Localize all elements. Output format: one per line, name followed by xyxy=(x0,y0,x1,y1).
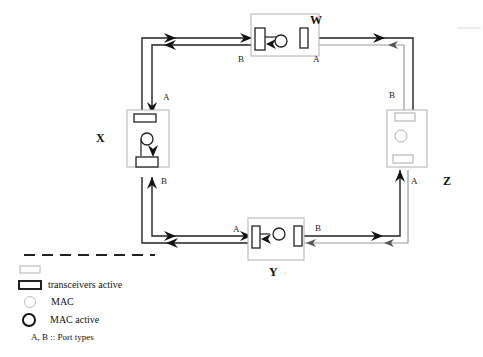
transceiver-b xyxy=(395,113,415,121)
transceiver-a xyxy=(393,155,413,163)
legend-mac-active-icon xyxy=(23,314,35,326)
transceiver-b xyxy=(136,157,158,167)
legend-label-mac: MAC xyxy=(51,296,74,307)
node-y[interactable]: Y A B xyxy=(233,218,321,279)
port-label-w-b: B xyxy=(238,54,244,64)
port-label-y-a: A xyxy=(233,224,240,234)
mac-icon xyxy=(275,35,287,47)
legend-label-port-types: A, B :: Port types xyxy=(31,332,94,342)
port-label-z-b: B xyxy=(389,90,395,100)
node-z[interactable]: Z B A xyxy=(387,90,451,188)
legend-transceiver-idle xyxy=(20,266,40,273)
mac-icon xyxy=(141,133,153,145)
legend-mac-idle-icon xyxy=(25,297,36,308)
node-label-y: Y xyxy=(269,265,278,279)
port-label-x-a: A xyxy=(163,92,170,102)
link-y-z xyxy=(304,170,408,247)
link-w-x xyxy=(142,33,252,114)
mac-icon xyxy=(273,228,285,240)
port-label-y-b: B xyxy=(315,223,321,233)
node-label-x: X xyxy=(96,131,105,145)
port-label-z-a: A xyxy=(411,176,418,186)
mac-icon xyxy=(395,130,407,142)
transceiver-a xyxy=(134,114,156,122)
transceiver-b xyxy=(294,226,302,246)
legend-label-transceivers-active: transceivers active xyxy=(48,279,123,290)
transceiver-a xyxy=(300,28,308,48)
legend: transceivers active MAC MAC active A, B … xyxy=(19,255,155,342)
node-w[interactable]: W B A xyxy=(238,13,322,64)
node-label-z: Z xyxy=(443,174,451,188)
legend-transceiver-active xyxy=(19,281,41,289)
transceiver-a xyxy=(252,226,260,248)
link-x-y xyxy=(142,177,252,248)
node-x[interactable]: X A B xyxy=(96,92,170,186)
port-label-x-b: B xyxy=(161,176,167,186)
transceiver-b xyxy=(255,28,265,50)
port-label-w-a: A xyxy=(313,54,320,64)
node-label-w: W xyxy=(310,13,322,27)
legend-label-mac-active: MAC active xyxy=(50,314,100,325)
network-diagram: W B A X A B Y A B Z B A xyxy=(0,0,483,357)
